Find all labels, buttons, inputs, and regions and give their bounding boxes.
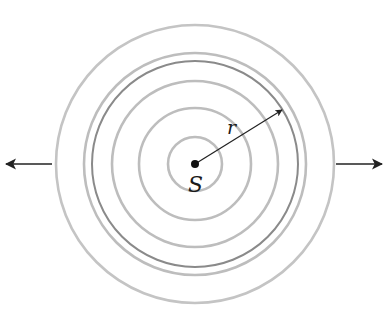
- radius-arrow: [195, 110, 282, 164]
- wavefront-diagram: S r: [0, 0, 386, 331]
- source-point: [191, 160, 199, 168]
- source-label: S: [188, 172, 203, 197]
